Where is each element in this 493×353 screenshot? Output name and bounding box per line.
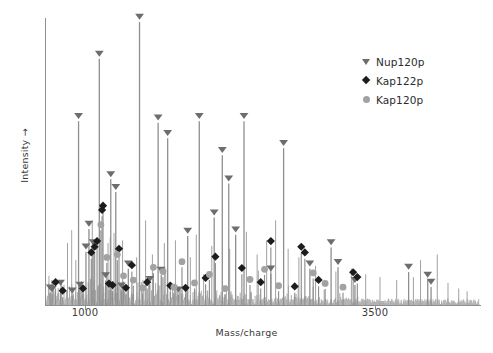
legend-item-kap120p: Kap120p — [358, 91, 425, 108]
legend-label-nup120p: Nup120p — [376, 56, 425, 68]
legend-label-kap122p: Kap122p — [376, 75, 423, 87]
circle-marker-icon — [358, 96, 374, 103]
legend-item-nup120p: Nup120p — [358, 53, 425, 70]
legend-label-kap120p: Kap120p — [376, 94, 423, 106]
diamond-marker-icon — [358, 77, 374, 83]
legend-item-kap122p: Kap122p — [358, 72, 425, 89]
mass-spectrum-figure: Intensity → Mass/charge 1000 3500 Nup120… — [0, 0, 493, 353]
triangle-down-marker-icon — [358, 59, 374, 65]
legend: Nup120p Kap122p Kap120p — [358, 53, 425, 110]
